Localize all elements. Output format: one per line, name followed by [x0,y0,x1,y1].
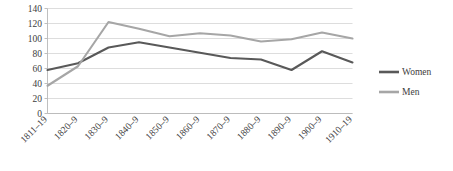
x-tick-label: 1870–9 [205,114,232,141]
y-tick-label: 100 [28,34,43,44]
legend-label-men: Men [402,87,420,97]
y-tick-label: 80 [33,49,43,59]
x-tick-label: 1860–9 [174,114,201,141]
y-tick-label: 40 [33,79,43,89]
x-tick-label: 1820–9 [52,114,79,141]
x-tick-label: 1840–9 [113,114,140,141]
x-tick-label: 1900–9 [296,114,323,141]
y-tick-label: 120 [28,19,43,29]
y-tick-label: 20 [33,94,43,104]
y-tick-label: 140 [28,4,43,14]
series-line-women [48,42,353,70]
y-axis-tick-labels: 020406080100120140 [28,4,48,119]
x-tick-label: 1910–19 [323,114,354,145]
legend-label-women: Women [402,67,432,77]
x-tick-label: 1830–9 [83,114,110,141]
x-tick-label: 1880–9 [235,114,262,141]
x-tick-label: 1890–9 [266,114,293,141]
line-chart: 020406080100120140 1811–191820–91830–918… [0,0,453,171]
y-tick-label: 60 [33,64,43,74]
chart-canvas: 020406080100120140 1811–191820–91830–918… [0,0,453,171]
x-tick-label: 1811–19 [19,114,50,145]
x-axis-tick-labels: 1811–191820–91830–91840–91850–91860–9187… [19,114,355,145]
chart-legend: WomenMen [379,67,432,97]
x-tick-label: 1850–9 [144,114,171,141]
